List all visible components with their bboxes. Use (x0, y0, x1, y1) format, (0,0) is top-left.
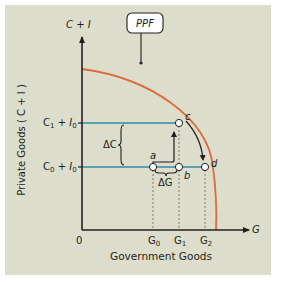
a-to-c-path (153, 132, 174, 163)
y-axis-label: Private Goods ( C + I ) (16, 84, 27, 196)
lower-level-label: C0 + I0 (43, 161, 77, 174)
origin-label: 0 (76, 235, 82, 246)
ppf-leader-dot (139, 61, 142, 64)
g2-main: G (200, 235, 208, 246)
lower-level-c: C (43, 161, 50, 172)
point-a-marker (149, 163, 156, 170)
g0-main: G (148, 235, 156, 246)
upper-level-c: C (43, 117, 50, 128)
g2-label: G2 (200, 235, 212, 248)
point-d-marker (201, 163, 208, 170)
delta-c-label: ΔC (103, 139, 117, 150)
point-a-label: a (150, 150, 156, 161)
delta-g-label: ΔG (158, 177, 173, 188)
ppf-diagram: PPF a b c d ΔC ΔG C + I G 0 C1 + I0 C0 +… (0, 0, 281, 283)
delta-g-brace (155, 170, 177, 176)
c-to-d-arrow (186, 121, 203, 160)
ppf-label: PPF (136, 18, 154, 29)
y-axis-title: C + I (66, 19, 91, 30)
point-c-marker (175, 119, 182, 126)
point-c-label: c (185, 111, 191, 122)
g0-label: G0 (148, 235, 160, 248)
lower-level-plus-i: + I (54, 161, 72, 172)
x-axis-label: Government Goods (110, 250, 212, 262)
delta-c-brace (118, 125, 124, 165)
upper-level-i-sub: 0 (72, 122, 76, 130)
upper-level-label: C1 + I0 (43, 117, 77, 130)
lower-level-i-sub: 0 (72, 166, 76, 174)
point-b-marker (175, 163, 182, 170)
g1-sub: 1 (182, 240, 186, 248)
point-b-label: b (184, 170, 190, 181)
x-axis-title: G (252, 224, 260, 235)
upper-level-plus-i: + I (54, 117, 72, 128)
g1-main: G (174, 235, 182, 246)
g1-label: G1 (174, 235, 186, 248)
point-d-label: d (211, 158, 218, 169)
g0-sub: 0 (156, 240, 160, 248)
g2-sub: 2 (208, 240, 212, 248)
